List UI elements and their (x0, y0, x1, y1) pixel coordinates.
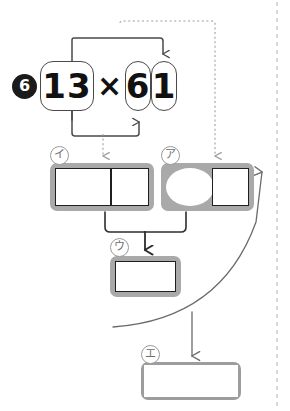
multiplication-operator-icon: × (97, 71, 122, 101)
answer-cell-a-1-oval[interactable] (166, 168, 214, 206)
label-box-e: エ (141, 345, 160, 364)
connector-box-a-to-merge (145, 212, 186, 232)
answer-cell-i-2[interactable] (111, 168, 149, 206)
answer-cell-u-1[interactable] (115, 261, 176, 292)
multiplicand-box: 13 (40, 61, 94, 111)
answer-cell-e-1[interactable] (144, 365, 238, 397)
answer-box-u[interactable] (110, 256, 181, 297)
answer-box-i[interactable] (50, 163, 154, 211)
label-box-i: イ (50, 146, 69, 165)
connector-box-i-to-merge (105, 212, 145, 232)
equation-row: 6 13 × 6 1 (12, 60, 177, 112)
answer-box-e[interactable] (141, 362, 241, 400)
multiplier-ones-digit-box: 1 (151, 61, 177, 111)
label-box-u: ウ (110, 238, 129, 257)
answer-cell-i-1[interactable] (55, 168, 111, 206)
label-box-a: ア (161, 146, 180, 165)
worksheet-diagram: 6 13 × 6 1 イ ア ウ エ (0, 0, 290, 411)
answer-box-a[interactable] (161, 163, 254, 211)
answer-cell-a-2[interactable] (212, 168, 249, 206)
question-number-marker: 6 (12, 74, 37, 99)
multiplier-tens-digit-box: 6 (125, 61, 151, 111)
